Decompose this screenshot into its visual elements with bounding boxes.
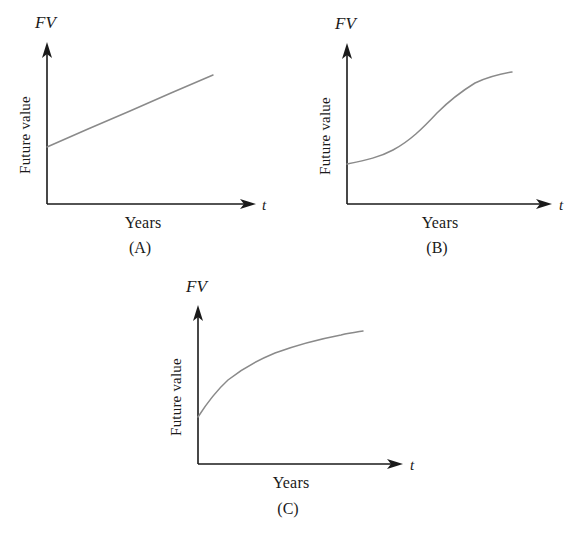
panel-b-plot: FV t Future value Years (B) — [289, 0, 578, 268]
y-axis-label-c: Future value — [168, 358, 184, 436]
data-curve-c — [198, 331, 363, 417]
y-axis-symbol-b: FV — [334, 14, 358, 33]
panel-c: FV t Future value Years (C) — [140, 268, 429, 537]
panel-caption-b: (B) — [426, 239, 447, 257]
figure-container: FV t Future value Years (A) FV t — [0, 0, 578, 537]
y-axis-label-b: Future value — [317, 97, 333, 175]
panel-b: FV t Future value Years (B) — [289, 0, 578, 268]
x-axis-label-a: Years — [125, 214, 162, 231]
y-axis-label-a: Future value — [17, 96, 33, 174]
data-curve-a — [47, 75, 213, 147]
y-axis-symbol-c: FV — [185, 277, 209, 296]
x-axis-label-c: Years — [273, 474, 310, 491]
panel-a-plot: FV t Future value Years (A) — [0, 0, 289, 268]
y-axis-symbol-a: FV — [34, 13, 58, 32]
panel-a: FV t Future value Years (A) — [0, 0, 289, 268]
panel-caption-a: (A) — [129, 239, 151, 257]
data-curve-b — [347, 72, 512, 164]
panel-caption-c: (C) — [277, 500, 298, 518]
x-axis-symbol-a: t — [262, 197, 267, 213]
x-axis-symbol-b: t — [559, 197, 564, 213]
panel-c-plot: FV t Future value Years (C) — [140, 268, 429, 537]
x-axis-symbol-c: t — [410, 457, 415, 473]
x-axis-label-b: Years — [422, 214, 459, 231]
